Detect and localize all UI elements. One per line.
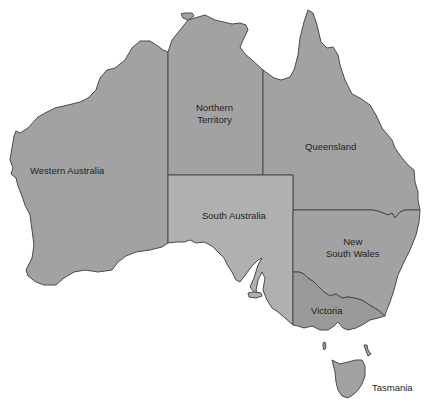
island-kangaroo bbox=[248, 292, 262, 298]
australia-map bbox=[0, 0, 426, 407]
label-new-south-wales: New South Wales bbox=[326, 236, 380, 260]
label-text: Queensland bbox=[305, 141, 356, 152]
region-western-australia[interactable] bbox=[10, 41, 168, 285]
label-northern-territory: Northern Territory bbox=[196, 102, 233, 126]
label-western-australia: Western Australia bbox=[30, 165, 104, 177]
label-text: Victoria bbox=[311, 305, 343, 316]
label-line-1: New bbox=[326, 236, 380, 248]
label-south-australia: South Australia bbox=[202, 210, 266, 222]
region-tasmania[interactable] bbox=[332, 360, 365, 398]
region-south-australia[interactable] bbox=[168, 175, 293, 325]
region-northern-territory[interactable] bbox=[168, 15, 263, 175]
label-text: Tasmania bbox=[372, 382, 413, 393]
island-king bbox=[323, 342, 326, 350]
label-line-2: South Wales bbox=[326, 248, 380, 260]
label-victoria: Victoria bbox=[311, 305, 343, 317]
label-line-2: Territory bbox=[196, 114, 233, 126]
island-flinders bbox=[364, 345, 371, 356]
label-tasmania: Tasmania bbox=[372, 382, 413, 394]
label-text: Western Australia bbox=[30, 165, 104, 176]
label-queensland: Queensland bbox=[305, 141, 356, 153]
label-text: South Australia bbox=[202, 210, 266, 221]
label-line-1: Northern bbox=[196, 102, 233, 114]
